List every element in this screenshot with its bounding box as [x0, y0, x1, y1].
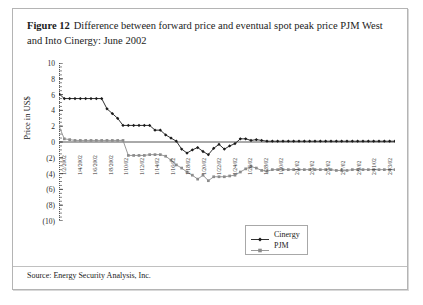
data-point: [68, 138, 71, 141]
y-axis-tick-labels: 1086420(2)(4)(6)(8)(10): [29, 63, 55, 221]
data-point: [89, 97, 92, 100]
data-point: [271, 168, 274, 171]
data-point: [84, 139, 87, 142]
x-tick-label: 2/7/02: [340, 161, 346, 175]
x-tick-label: 1/20/02: [201, 158, 207, 175]
data-point: [362, 168, 365, 171]
y-tick-label: 4: [29, 106, 55, 115]
x-tick-label: 2/5/02: [325, 161, 331, 175]
data-point: [351, 168, 354, 171]
data-point: [59, 125, 60, 128]
chart-legend: CinergyPJM: [245, 225, 308, 255]
series-line-cinergy: [59, 94, 395, 155]
data-point: [127, 124, 130, 127]
data-point: [319, 168, 322, 171]
y-tick-label: 10: [29, 59, 55, 68]
figure-container: Figure 12Difference between forward pric…: [12, 8, 408, 290]
x-tick-label: 1/10/02: [123, 158, 129, 175]
data-point: [122, 139, 125, 142]
data-point: [90, 139, 93, 142]
data-point: [255, 167, 258, 170]
x-tick-label: 2/13/02: [387, 158, 393, 175]
x-tick-label: 2/3/02: [309, 161, 315, 175]
x-tick-label: 1/8/2002: [108, 155, 114, 175]
legend-label: Cinergy: [274, 230, 300, 239]
y-tick-label: 0: [29, 138, 55, 147]
data-point: [100, 97, 103, 100]
data-point: [159, 153, 162, 156]
square-marker-icon: [250, 241, 270, 250]
figure-title: Figure 12Difference between forward pric…: [27, 19, 393, 48]
x-tick-label: 2/1/02: [294, 161, 300, 175]
x-tick-label: 1/16/02: [170, 158, 176, 175]
x-tick-label: 1/4/2002: [77, 155, 83, 175]
data-point: [367, 168, 370, 171]
data-point: [79, 139, 82, 142]
legend-item-cinergy: Cinergy: [250, 229, 300, 240]
y-tick-label: (8): [29, 201, 55, 210]
data-point: [239, 171, 242, 174]
data-point: [95, 139, 98, 142]
x-axis-tick-labels: 1/2/20021/4/20021/6/20021/8/20021/10/021…: [59, 175, 395, 225]
data-point: [79, 97, 82, 100]
y-tick-label: (4): [29, 169, 55, 178]
diamond-marker-icon: [250, 230, 270, 239]
data-point: [383, 168, 386, 171]
x-tick-label: 1/28/02: [263, 158, 269, 175]
data-point: [111, 139, 114, 142]
x-tick-label: 1/14/02: [154, 158, 160, 175]
data-point: [148, 153, 151, 156]
x-tick-label: 1/6/2002: [92, 155, 98, 175]
data-point: [244, 137, 247, 140]
legend-item-pjm: PJM: [250, 240, 300, 251]
y-tick-label: (6): [29, 185, 55, 194]
data-point: [106, 139, 109, 142]
data-point: [116, 139, 119, 142]
data-point: [84, 97, 87, 100]
data-point: [143, 154, 146, 157]
y-tick-label: 6: [29, 90, 55, 99]
source-divider: [13, 266, 407, 267]
data-point: [127, 154, 130, 157]
x-tick-label: 1/22/02: [216, 158, 222, 175]
data-point: [138, 154, 141, 157]
x-tick-label: 1/12/02: [139, 158, 145, 175]
data-point: [303, 168, 306, 171]
data-point: [132, 154, 135, 157]
data-point: [68, 97, 71, 100]
legend-label: PJM: [274, 241, 289, 250]
data-point: [154, 153, 157, 156]
data-point: [100, 139, 103, 142]
y-tick-label: 8: [29, 74, 55, 83]
x-tick-label: 1/26/02: [247, 158, 253, 175]
data-point: [73, 97, 76, 100]
x-tick-label: 1/24/02: [232, 158, 238, 175]
data-point: [335, 169, 338, 172]
data-point: [378, 168, 381, 171]
x-tick-label: 1/30/02: [278, 158, 284, 175]
data-point: [95, 97, 98, 100]
source-note: Source: Energy Security Analysis, Inc.: [27, 271, 151, 280]
data-point: [132, 124, 135, 127]
figure-number: Figure 12: [27, 20, 70, 31]
data-point: [255, 138, 258, 141]
data-point: [180, 167, 183, 170]
y-tick-label: 2: [29, 122, 55, 131]
data-point: [164, 155, 167, 158]
figure-title-text: Difference between forward price and eve…: [27, 20, 383, 46]
data-point: [394, 168, 395, 171]
y-tick-label: (10): [29, 217, 55, 226]
x-tick-label: 2/9/02: [356, 161, 362, 175]
y-tick-label: (2): [29, 153, 55, 162]
data-point: [287, 168, 290, 171]
data-point: [74, 139, 77, 142]
x-tick-label: 1/2/2002: [61, 155, 67, 175]
x-tick-label: 1/18/02: [185, 158, 191, 175]
data-point: [137, 124, 140, 127]
x-tick-label: 2/11/02: [371, 158, 377, 175]
data-point: [143, 124, 146, 127]
data-point: [63, 137, 66, 140]
data-point: [346, 169, 349, 172]
